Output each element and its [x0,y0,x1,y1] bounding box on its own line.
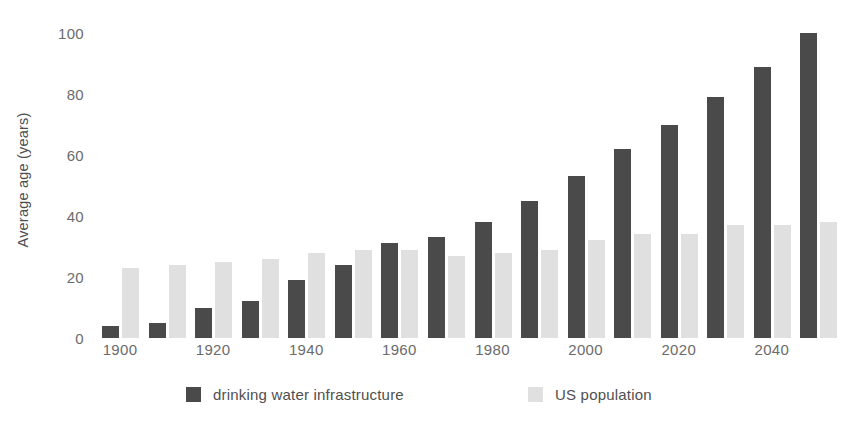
bar-group-1930 [242,33,289,338]
x-axis-tick-1920: 1920 [196,341,231,358]
bar-group-2010 [614,33,661,338]
bar-population-1950[interactable] [355,250,372,338]
legend-swatch-icon-dark [186,387,201,402]
bar-population-1910[interactable] [169,265,186,338]
bar-infrastructure-2000[interactable] [568,176,585,338]
bar-group-2040 [754,33,801,338]
bar-group-1970 [428,33,475,338]
bar-population-1940[interactable] [308,253,325,338]
x-axis-tick-2040: 2040 [755,341,790,358]
x-axis-tick-1980: 1980 [475,341,510,358]
x-axis-tick-1940: 1940 [289,341,324,358]
y-axis-title: Average age (years) [0,0,46,360]
bar-chart: Average age (years) 020406080100 1900192… [0,0,849,422]
bar-infrastructure-2010[interactable] [614,149,631,338]
bar-population-1930[interactable] [262,259,279,338]
bar-group-1990 [521,33,568,338]
bar-infrastructure-1950[interactable] [335,265,352,338]
bar-infrastructure-2050[interactable] [800,33,817,338]
bar-population-2030[interactable] [727,225,744,338]
bar-infrastructure-1940[interactable] [288,280,305,338]
bar-group-2020 [661,33,708,338]
bar-infrastructure-1960[interactable] [381,243,398,338]
bar-population-2010[interactable] [634,234,651,338]
bar-population-1900[interactable] [122,268,139,338]
legend-item-us-population[interactable]: US population [528,386,652,403]
y-axis-title-label: Average age (years) [15,113,31,248]
x-axis-tick-2020: 2020 [661,341,696,358]
chart-legend: drinking water infrastructure US populat… [96,386,841,412]
y-axis-tick-40: 40 [67,208,84,225]
y-axis-tick-60: 60 [67,147,84,164]
bar-population-1970[interactable] [448,256,465,338]
bar-infrastructure-1990[interactable] [521,201,538,338]
bar-infrastructure-2040[interactable] [754,67,771,338]
bar-population-1980[interactable] [495,253,512,338]
bar-infrastructure-2030[interactable] [707,97,724,338]
bar-group-1940 [288,33,335,338]
bar-group-2030 [707,33,754,338]
bar-group-2000 [568,33,615,338]
y-axis-tick-labels: 020406080100 [46,0,92,360]
legend-label: US population [555,386,652,403]
bar-population-2050[interactable] [820,222,837,338]
bar-population-1920[interactable] [215,262,232,338]
bar-group-1950 [335,33,382,338]
y-axis-tick-20: 20 [67,269,84,286]
legend-swatch-icon-light [528,387,543,402]
bar-infrastructure-1900[interactable] [102,326,119,338]
x-axis-tick-1960: 1960 [382,341,417,358]
x-axis-tick-labels: 19001920194019601980200020202040 [96,341,841,369]
bar-infrastructure-2020[interactable] [661,125,678,339]
bar-population-2020[interactable] [681,234,698,338]
bar-group-1980 [475,33,522,338]
bar-infrastructure-1920[interactable] [195,308,212,339]
y-axis-tick-80: 80 [67,86,84,103]
x-axis-tick-1900: 1900 [103,341,138,358]
bar-infrastructure-1980[interactable] [475,222,492,338]
bar-group-1920 [195,33,242,338]
legend-item-drinking-water-infrastructure[interactable]: drinking water infrastructure [186,386,404,403]
bar-population-1990[interactable] [541,250,558,338]
y-axis-tick-0: 0 [75,330,84,347]
bar-population-1960[interactable] [401,250,418,338]
bar-population-2040[interactable] [774,225,791,338]
bar-group-2050 [800,33,847,338]
bar-group-1910 [149,33,196,338]
bar-population-2000[interactable] [588,240,605,338]
legend-label: drinking water infrastructure [213,386,404,403]
bar-infrastructure-1970[interactable] [428,237,445,338]
bar-group-1900 [102,33,149,338]
x-axis-tick-2000: 2000 [568,341,603,358]
bar-infrastructure-1930[interactable] [242,301,259,338]
bar-group-1960 [381,33,428,338]
bar-infrastructure-1910[interactable] [149,323,166,338]
y-axis-tick-100: 100 [58,25,84,42]
plot-area [96,0,841,360]
